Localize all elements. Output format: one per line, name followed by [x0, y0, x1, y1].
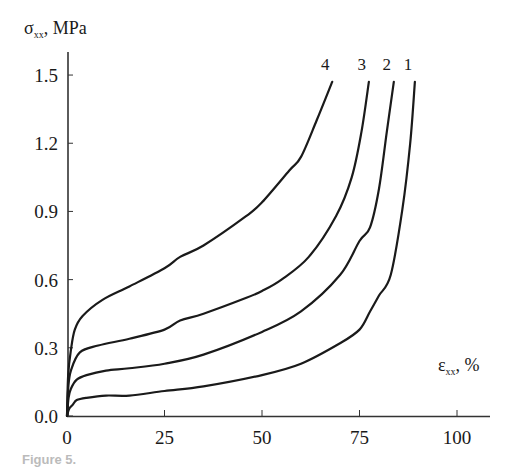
curve-label-2: 2 [383, 55, 392, 74]
y-tick-label: 1.2 [34, 133, 58, 154]
x-tick-label: 25 [155, 427, 174, 448]
x-tick-label: 0 [62, 427, 72, 448]
curve-1 [67, 82, 415, 416]
y-tick-label: 0.6 [34, 270, 58, 291]
curve-label-4: 4 [321, 55, 330, 74]
figure-caption: Figure 5. [22, 452, 76, 467]
curves [67, 82, 415, 416]
curve-2 [67, 82, 394, 416]
curve-labels: 1234 [321, 55, 412, 74]
curve-3 [67, 82, 369, 416]
curve-label-1: 1 [404, 55, 413, 74]
x-tick-label: 100 [443, 427, 472, 448]
curve-label-3: 3 [358, 55, 367, 74]
y-tick-label: 0.9 [34, 201, 58, 222]
y-axis-title: σxx, MPa [24, 18, 87, 40]
x-tick-label: 50 [253, 427, 272, 448]
y-axis-ticks: 0.00.30.60.91.21.5 [34, 65, 73, 427]
y-tick-label: 1.5 [34, 65, 58, 86]
x-axis-title: εxx, % [438, 355, 480, 377]
y-tick-label: 0.0 [34, 406, 58, 427]
x-tick-label: 75 [350, 427, 369, 448]
y-tick-label: 0.3 [34, 338, 58, 359]
